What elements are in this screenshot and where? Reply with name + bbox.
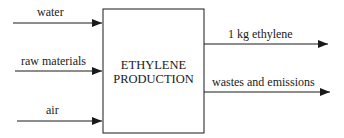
- process-label-line2: PRODUCTION: [103, 72, 204, 86]
- output-label-ethylene: 1 kg ethylene: [228, 28, 293, 40]
- input-label-air: air: [46, 104, 59, 116]
- process-label: ETHYLENE PRODUCTION: [103, 58, 204, 86]
- output-label-wastes: wastes and emissions: [212, 76, 315, 88]
- input-label-water: water: [37, 6, 64, 18]
- input-label-raw-materials: raw materials: [21, 55, 86, 67]
- process-label-line1: ETHYLENE: [103, 58, 204, 72]
